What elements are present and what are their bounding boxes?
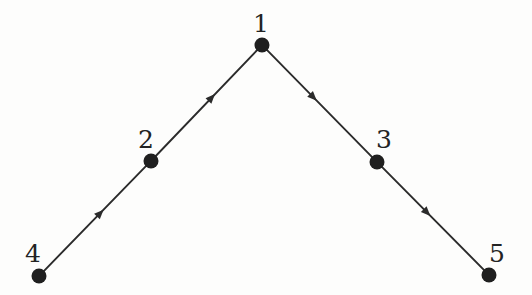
node-5[interactable] bbox=[482, 268, 497, 283]
node-4[interactable] bbox=[32, 269, 47, 284]
node-label-1: 1 bbox=[253, 11, 269, 36]
node-3[interactable] bbox=[370, 155, 385, 170]
node-label-2: 2 bbox=[138, 127, 154, 152]
edges-layer bbox=[42, 48, 486, 273]
node-1[interactable] bbox=[255, 38, 270, 53]
graph-diagram: 12345 bbox=[0, 0, 532, 295]
graph-canvas bbox=[0, 0, 532, 295]
edge-2-to-1 bbox=[154, 48, 259, 158]
edge-3-to-5 bbox=[380, 165, 486, 272]
nodes-layer bbox=[32, 38, 497, 284]
edge-1-to-3 bbox=[265, 48, 374, 159]
edge-4-to-2 bbox=[42, 164, 148, 273]
node-label-5: 5 bbox=[489, 241, 505, 266]
node-label-3: 3 bbox=[376, 127, 392, 152]
node-2[interactable] bbox=[144, 154, 159, 169]
node-label-4: 4 bbox=[25, 241, 41, 266]
